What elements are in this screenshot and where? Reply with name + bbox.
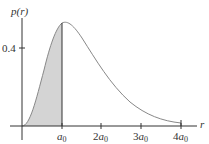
y-tick-label: 0.4 [2, 42, 16, 54]
probability-density-chart: p(r) 0.4 r a0 2a0 3a0 4a0 [0, 0, 209, 144]
x-tick-label-2a0: 2a0 [93, 130, 108, 144]
x-axis-label: r [200, 118, 205, 130]
x-tick-label-a0: a0 [57, 130, 67, 144]
x-tick-label-4a0: 4a0 [173, 130, 188, 144]
y-axis-label: p(r) [10, 5, 28, 18]
x-tick-label-3a0: 3a0 [133, 130, 148, 144]
shaded-area [22, 23, 62, 126]
